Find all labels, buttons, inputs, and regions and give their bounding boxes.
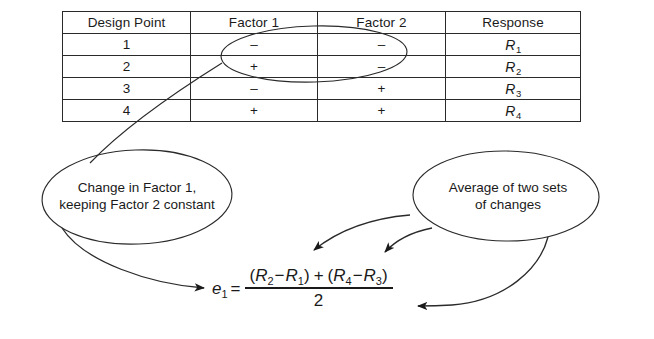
cell-factor-2: + [318,100,446,122]
cell-factor-1: – [191,78,318,100]
arrow-right-bubble-to-denominator [418,237,548,306]
column-header-response: Response [446,12,581,34]
cell-design-point: 1 [63,34,191,56]
bubble-left-ellipse [40,146,233,247]
cell-response: R2 [446,56,581,78]
column-header-factor-1: Factor 1 [191,12,318,34]
equation-fraction: (R2−R1)+(R4−R3) 2 [245,266,393,311]
table-row: 2 + – R2 [63,56,581,78]
bubble-right-ellipse [412,150,599,243]
cell-factor-2: – [318,34,446,56]
column-header-design-point: Design Point [63,12,191,34]
arrow-right-bubble-to-term-2 [385,228,432,252]
cell-design-point: 4 [63,100,191,122]
cell-factor-1: + [191,100,318,122]
column-header-factor-2: Factor 2 [318,12,446,34]
arrow-right-bubble-to-term-1 [314,215,410,250]
equation-denominator: 2 [314,289,323,311]
effect-equation: e1 = (R2−R1)+(R4−R3) 2 [212,266,393,311]
cell-factor-2: + [318,78,446,100]
cell-factor-1: – [191,34,318,56]
table-row: 4 + + R4 [63,100,581,122]
equation-lhs: e1 [212,279,228,299]
cell-response: R4 [446,100,581,122]
cell-factor-2: – [318,56,446,78]
table-row: 1 – – R1 [63,34,581,56]
cell-factor-1: + [191,56,318,78]
cell-design-point: 3 [63,78,191,100]
figure-canvas: Design Point Factor 1 Factor 2 Response … [0,0,654,339]
equation-equals-sign: = [231,279,241,299]
cell-design-point: 2 [63,56,191,78]
design-matrix-table: Design Point Factor 1 Factor 2 Response … [62,11,581,122]
cell-response: R3 [446,78,581,100]
equation-numerator: (R2−R1)+(R4−R3) [245,266,393,287]
table-row: 3 – + R3 [63,78,581,100]
cell-response: R1 [446,34,581,56]
table-header-row: Design Point Factor 1 Factor 2 Response [63,12,581,34]
